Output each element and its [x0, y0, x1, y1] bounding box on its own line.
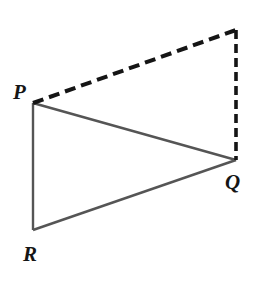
- vertex-label-R: R: [23, 244, 37, 265]
- vertex-label-P: P: [13, 82, 26, 103]
- figure-background: [0, 0, 269, 283]
- geometry-figure: P Q R: [0, 0, 269, 283]
- figure-canvas: [0, 0, 269, 283]
- vertex-label-Q: Q: [225, 172, 240, 193]
